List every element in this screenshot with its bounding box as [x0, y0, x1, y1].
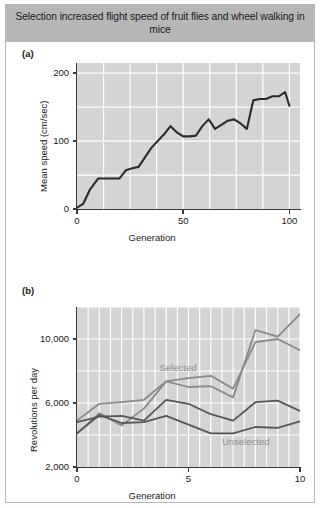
x-tick-mark [299, 468, 300, 472]
y-tick-label: 200 [53, 67, 69, 78]
x-axis-title-panel-b: Generation [128, 490, 175, 501]
x-tick-label: 10 [295, 473, 306, 484]
panel-label-b: (b) [22, 285, 34, 296]
x-tick-label: 0 [74, 473, 79, 484]
figure-page: Selection increased flight speed of frui… [0, 0, 320, 508]
y-tick-label: 10,000 [40, 333, 69, 344]
y-axis-title-panel-b: Revolutions per day [28, 368, 39, 452]
plot-area-panel-a [77, 63, 300, 209]
y-tick-label: 0 [64, 203, 69, 214]
x-tick-label: 50 [178, 215, 189, 226]
figure-title-band: Selection increased flight speed of frui… [5, 4, 315, 42]
figure-frame: (a) 0100200050100 Mean speed (cm/sec) Ge… [5, 42, 315, 503]
plot-a-canvas [77, 63, 300, 209]
plot-area-panel-b: Selected Unselected [77, 307, 300, 467]
x-tick-mark [182, 210, 183, 214]
y-tick-label: 100 [53, 135, 69, 146]
x-tick-label: 100 [281, 215, 297, 226]
y-axis-title-panel-a: Mean speed (cm/sec) [38, 101, 49, 192]
x-tick-mark [188, 468, 189, 472]
y-tick-label: 2,000 [45, 461, 69, 472]
x-tick-mark [76, 210, 77, 214]
x-axis-line-panel-a [76, 209, 301, 210]
y-axis-line-panel-a [76, 63, 77, 210]
y-axis-line-panel-b [76, 307, 77, 468]
series-annotation-selected: Selected [160, 362, 197, 373]
panel-label-a: (a) [22, 48, 34, 59]
x-tick-label: 5 [186, 473, 191, 484]
y-tick-mark [73, 338, 77, 339]
x-axis-title-panel-a: Generation [128, 232, 175, 243]
y-tick-mark [73, 402, 77, 403]
series-annotation-unselected: Unselected [222, 436, 270, 447]
y-tick-label: 6,000 [45, 397, 69, 408]
y-tick-mark [73, 140, 77, 141]
y-tick-mark [73, 72, 77, 73]
figure-title: Selection increased flight speed of frui… [15, 10, 305, 36]
x-tick-mark [289, 210, 290, 214]
x-tick-mark [76, 468, 77, 472]
x-tick-label: 0 [74, 215, 79, 226]
